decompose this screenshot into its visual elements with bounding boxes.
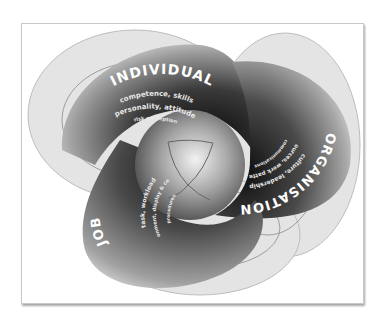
three-ring-diagram: INDIVIDUAL competence, skills personalit… — [0, 0, 380, 326]
center-sphere — [135, 110, 245, 220]
